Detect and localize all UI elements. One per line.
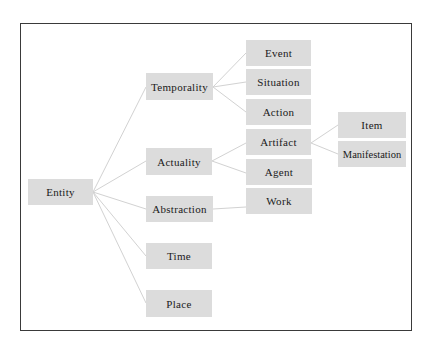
- node-agent: Agent: [246, 159, 312, 185]
- edge-temporality-event: [213, 53, 246, 87]
- node-manifestation: Manifestation: [338, 141, 406, 167]
- node-event: Event: [246, 40, 311, 66]
- edge-temporality-situation: [213, 82, 246, 87]
- node-work: Work: [246, 188, 312, 214]
- edge-actuality-artifact: [212, 143, 246, 161]
- node-temporality: Temporality: [146, 73, 213, 100]
- edge-temporality-action: [213, 87, 246, 112]
- node-situation: Situation: [246, 69, 311, 95]
- node-artifact: Artifact: [246, 129, 311, 155]
- node-action: Action: [246, 99, 311, 125]
- edge-abstraction-work: [213, 207, 246, 209]
- node-abstraction: Abstraction: [146, 196, 213, 222]
- edge-artifact-manifestation: [311, 143, 338, 154]
- tree-connectors: [0, 0, 433, 349]
- node-place: Place: [146, 290, 212, 317]
- node-time: Time: [146, 243, 212, 269]
- edge-entity-place: [93, 192, 146, 303]
- node-actuality: Actuality: [146, 148, 212, 175]
- edge-actuality-agent: [212, 161, 246, 173]
- node-entity: Entity: [28, 179, 93, 205]
- edge-entity-abstraction: [93, 192, 146, 209]
- edge-artifact-item: [311, 125, 338, 143]
- node-item: Item: [338, 112, 406, 138]
